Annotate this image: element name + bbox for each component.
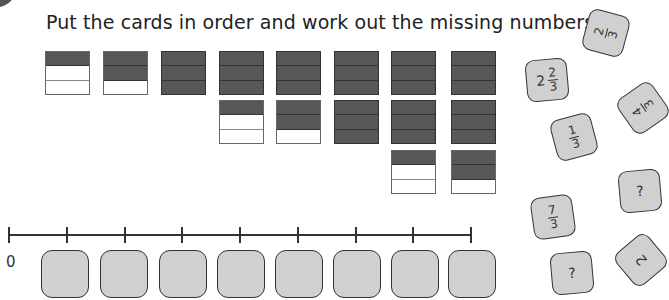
- number-line-tick: [297, 227, 299, 243]
- card-fraction: 23: [592, 25, 621, 41]
- card-fraction: 13: [566, 123, 582, 152]
- shaded-third: [452, 114, 495, 128]
- answer-slot[interactable]: [391, 250, 439, 298]
- shaded-third: [104, 65, 147, 79]
- shaded-third: [452, 52, 495, 65]
- answer-slot[interactable]: [159, 250, 207, 298]
- fraction-bar: [451, 150, 496, 194]
- unshaded-third: [46, 65, 89, 79]
- shaded-third: [335, 80, 378, 94]
- card-2-and-2-thirds[interactable]: 223: [524, 57, 570, 103]
- fraction-bar: [391, 51, 436, 95]
- fraction-bar: [276, 51, 321, 95]
- card-missing-1[interactable]: ?: [617, 168, 663, 214]
- number-line-tick: [355, 227, 357, 243]
- answer-slot[interactable]: [100, 250, 148, 298]
- shaded-third: [277, 80, 320, 94]
- number-line-tick: [124, 227, 126, 243]
- shaded-third: [392, 129, 435, 143]
- card-whole-number: 2: [536, 72, 546, 89]
- shaded-third: [452, 164, 495, 178]
- fraction-bar: [103, 51, 148, 95]
- fraction-bar: [391, 150, 436, 194]
- denominator: 3: [549, 217, 558, 231]
- fraction-bar: [276, 100, 321, 144]
- card-7-thirds[interactable]: 73: [529, 193, 576, 240]
- shaded-third: [220, 65, 263, 79]
- card-label: ?: [636, 183, 645, 200]
- answer-slot[interactable]: [448, 250, 496, 298]
- answer-slot[interactable]: [217, 250, 265, 298]
- shaded-third: [452, 80, 495, 94]
- shaded-third: [277, 114, 320, 128]
- shaded-third: [162, 80, 205, 94]
- unshaded-third: [392, 179, 435, 193]
- shaded-third: [104, 52, 147, 65]
- shaded-third: [162, 52, 205, 65]
- shaded-third: [392, 52, 435, 65]
- fraction-bar: [161, 51, 206, 95]
- number-line-tick: [181, 227, 183, 243]
- card-label: 2: [632, 251, 650, 268]
- denominator: 3: [549, 80, 558, 94]
- number-line-tick: [8, 227, 10, 243]
- unshaded-third: [220, 129, 263, 143]
- shaded-third: [452, 129, 495, 143]
- shaded-third: [392, 151, 435, 164]
- shaded-third: [277, 65, 320, 79]
- denominator: 3: [605, 29, 620, 40]
- denominator: 3: [641, 97, 656, 111]
- unshaded-third: [392, 164, 435, 178]
- number-line-tick: [66, 227, 68, 243]
- fraction-bar: [334, 100, 379, 144]
- shaded-third: [392, 65, 435, 79]
- fraction-bar: [45, 51, 90, 95]
- fraction-bar: [451, 51, 496, 95]
- fraction-bar: [219, 51, 264, 95]
- unshaded-third: [220, 114, 263, 128]
- shaded-third: [335, 65, 378, 79]
- shaded-third: [392, 114, 435, 128]
- fraction-bar: [391, 100, 436, 144]
- card-1-third[interactable]: 13: [548, 111, 599, 162]
- answer-slot[interactable]: [41, 250, 89, 298]
- unshaded-third: [452, 179, 495, 193]
- card-2-thirds[interactable]: 23: [580, 7, 631, 58]
- shaded-third: [452, 65, 495, 79]
- unshaded-third: [277, 129, 320, 143]
- shaded-third: [277, 101, 320, 114]
- fraction-bar: [451, 100, 496, 144]
- answer-slot[interactable]: [333, 250, 381, 298]
- card-fraction: 23: [547, 66, 559, 94]
- card-4-thirds[interactable]: 43: [614, 79, 669, 137]
- card-missing-2[interactable]: ?: [549, 250, 595, 296]
- fraction-bar: [334, 51, 379, 95]
- unshaded-third: [104, 80, 147, 94]
- question-number-badge: [0, 0, 16, 8]
- number-line-tick: [470, 227, 472, 243]
- shaded-third: [335, 114, 378, 128]
- shaded-third: [162, 65, 205, 79]
- shaded-third: [277, 52, 320, 65]
- shaded-third: [220, 80, 263, 94]
- shaded-third: [335, 129, 378, 143]
- answer-slot[interactable]: [275, 250, 323, 298]
- shaded-third: [46, 52, 89, 65]
- card-label: ?: [568, 265, 577, 282]
- number-line-start-label: 0: [6, 253, 16, 271]
- card-2[interactable]: 2: [611, 230, 669, 289]
- number-line-tick: [412, 227, 414, 243]
- shaded-third: [335, 52, 378, 65]
- instruction-text: Put the cards in order and work out the …: [46, 11, 600, 33]
- shaded-third: [452, 151, 495, 164]
- unshaded-third: [46, 80, 89, 94]
- fraction-bar: [219, 100, 264, 144]
- card-fraction: 73: [546, 203, 559, 231]
- shaded-third: [220, 52, 263, 65]
- shaded-third: [392, 101, 435, 114]
- shaded-third: [335, 101, 378, 114]
- number-line-tick: [239, 227, 241, 243]
- denominator: 3: [570, 136, 581, 151]
- card-fraction: 43: [629, 96, 657, 119]
- shaded-third: [392, 80, 435, 94]
